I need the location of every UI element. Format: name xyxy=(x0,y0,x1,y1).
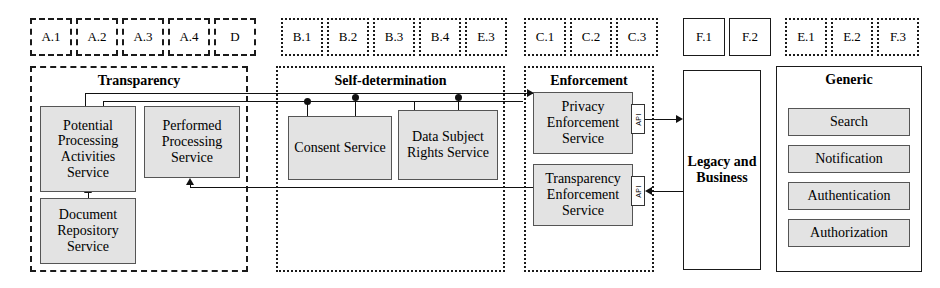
svc-data-subject-rights[interactable]: Data Subject Rights Service xyxy=(398,110,498,180)
svc-consent[interactable]: Consent Service xyxy=(288,116,392,180)
junction-dot-consent-a xyxy=(304,98,311,105)
svc-potential-processing-activities-label: Potential Processing Activities Service xyxy=(42,118,134,181)
connector-consent-bracket xyxy=(355,101,415,102)
tag-b2[interactable]: B.2 xyxy=(327,18,369,56)
tag-b4[interactable]: B.4 xyxy=(419,18,461,56)
tag-e1[interactable]: E.1 xyxy=(785,18,827,56)
tag-a3[interactable]: A.3 xyxy=(122,18,164,56)
tag-c3[interactable]: C.3 xyxy=(616,18,658,56)
connector-legacy-to-api xyxy=(652,191,683,192)
arrowhead-to-legacy xyxy=(676,115,683,123)
group-enforcement-title: Enforcement xyxy=(526,73,652,89)
svc-authorization-label: Authorization xyxy=(810,225,888,241)
tag-e3[interactable]: E.3 xyxy=(465,18,507,56)
svc-legacy-and-business-label: Legacy and Business xyxy=(685,154,759,185)
architecture-diagram: A.1A.2A.3A.4DB.1B.2B.3B.4E.3C.1C.2C.3F.1… xyxy=(0,0,940,288)
arrowhead-to-transparency-enforcement xyxy=(645,187,652,195)
api-privacy-enforcement-label: API xyxy=(635,113,642,125)
svc-notification-label: Notification xyxy=(815,151,883,167)
svc-performed-processing-label: Performed Processing Service xyxy=(146,118,238,165)
connector-upper-bus xyxy=(85,93,534,94)
svc-privacy-enforcement-label: Privacy Enforcement Service xyxy=(535,99,631,146)
tag-f1[interactable]: F.1 xyxy=(683,18,725,56)
tag-b1[interactable]: B.1 xyxy=(281,18,323,56)
svc-transparency-enforcement[interactable]: Transparency Enforcement Service xyxy=(533,164,633,226)
connector-feedback-bus xyxy=(190,187,533,188)
svc-authorization[interactable]: Authorization xyxy=(788,219,910,247)
svc-consent-label: Consent Service xyxy=(294,140,385,156)
tag-a4[interactable]: A.4 xyxy=(168,18,210,56)
junction-dot-dsr xyxy=(455,94,462,101)
svc-performed-processing[interactable]: Performed Processing Service xyxy=(144,106,240,178)
svc-legacy-and-business[interactable]: Legacy and Business xyxy=(683,70,761,270)
api-transparency-enforcement-label: API xyxy=(635,185,642,197)
svc-data-subject-rights-label: Data Subject Rights Service xyxy=(400,129,496,160)
tag-a2[interactable]: A.2 xyxy=(76,18,118,56)
tag-b3[interactable]: B.3 xyxy=(373,18,415,56)
svc-authentication-label: Authentication xyxy=(807,188,890,204)
group-generic-title: Generic xyxy=(777,72,921,88)
tag-c2[interactable]: C.2 xyxy=(570,18,612,56)
svc-search[interactable]: Search xyxy=(788,108,910,136)
svc-notification[interactable]: Notification xyxy=(788,145,910,173)
arrowhead-to-performed-processing xyxy=(186,178,194,185)
api-privacy-enforcement[interactable]: API xyxy=(631,104,645,134)
svc-authentication[interactable]: Authentication xyxy=(788,182,910,210)
svc-potential-processing-activities[interactable]: Potential Processing Activities Service xyxy=(40,106,136,192)
junction-dot-consent-b xyxy=(352,94,359,101)
tag-d[interactable]: D xyxy=(214,18,256,56)
svc-document-repository-label: Document Repository Service xyxy=(42,207,134,254)
svc-privacy-enforcement[interactable]: Privacy Enforcement Service xyxy=(533,92,633,154)
group-self-determination-title: Self-determination xyxy=(278,73,503,89)
group-transparency-title: Transparency xyxy=(32,73,246,89)
svc-document-repository[interactable]: Document Repository Service xyxy=(40,198,136,264)
tag-e2[interactable]: E.2 xyxy=(831,18,873,56)
svc-transparency-enforcement-label: Transparency Enforcement Service xyxy=(535,171,631,218)
svc-search-label: Search xyxy=(830,114,868,130)
tag-a1[interactable]: A.1 xyxy=(30,18,72,56)
tag-c1[interactable]: C.1 xyxy=(524,18,566,56)
connector-api-to-legacy xyxy=(645,119,678,120)
connector-lower-bus xyxy=(103,101,523,102)
tag-f2[interactable]: F.2 xyxy=(729,18,771,56)
tag-f3[interactable]: F.3 xyxy=(877,18,919,56)
api-transparency-enforcement[interactable]: API xyxy=(631,176,645,206)
